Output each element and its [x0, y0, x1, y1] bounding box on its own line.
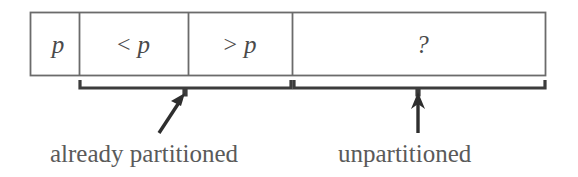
arrow-shaft-already-partitioned: [159, 101, 180, 133]
array-cell-less-than-operator: <: [117, 32, 131, 56]
arrow-unpartitioned: [411, 92, 425, 133]
array-cell-greater-than: >p: [188, 12, 292, 76]
arrow-already-partitioned: [159, 93, 185, 133]
partition-diagram: p <p >p ? already partitioned unpartitio…: [0, 0, 578, 177]
arrow-head-already-partitioned: [171, 93, 185, 106]
array-cell-unknown-label: ?: [416, 32, 429, 57]
array-cell-pivot: p: [30, 12, 79, 76]
array-cell-greater-than-operator: >: [223, 32, 237, 56]
array-cell-greater-than-label: p: [244, 32, 257, 57]
brace-path-unpartitioned: [294, 80, 545, 95]
brace-already-partitioned: [80, 80, 291, 95]
caption-unpartitioned: unpartitioned: [338, 141, 471, 166]
array-cell-less-than-label: p: [138, 32, 151, 57]
brace-path-already-partitioned: [80, 80, 291, 95]
array-cell-less-than: <p: [79, 12, 188, 76]
caption-already-partitioned: already partitioned: [50, 141, 238, 166]
array-cell-pivot-label: p: [52, 32, 65, 57]
array-cell-unknown: ?: [292, 12, 546, 76]
brace-unpartitioned: [294, 80, 545, 95]
